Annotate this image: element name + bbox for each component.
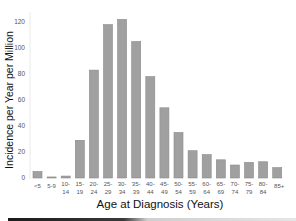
y-tick-label: 20 <box>18 148 26 155</box>
bar-15-19 <box>75 140 84 178</box>
x-tick-label: 15- <box>75 181 84 187</box>
x-tick-label: 70- <box>231 181 240 187</box>
x-tick-label: 44 <box>147 189 154 195</box>
x-tick-label: 50- <box>174 181 183 187</box>
x-tick-label: 30- <box>118 181 127 187</box>
x-tick-label: 75- <box>245 181 254 187</box>
x-tick-label: 69 <box>217 189 224 195</box>
x-tick-label: 24 <box>91 189 98 195</box>
bar-55-59 <box>188 151 197 178</box>
y-axis-ticks: 020406080100120 <box>14 18 25 181</box>
y-tick-label: 0 <box>21 174 25 181</box>
x-tick-label: 79 <box>246 189 253 195</box>
x-tick-label: 64 <box>203 189 210 195</box>
bar-60-64 <box>202 155 211 178</box>
bar-10-14 <box>61 176 70 178</box>
bar-80-84 <box>259 162 268 178</box>
y-tick-label: 40 <box>18 122 26 129</box>
x-tick-label: 54 <box>175 189 182 195</box>
bar-<5 <box>33 172 42 179</box>
x-tick-label: 10- <box>61 181 70 187</box>
bar-70-74 <box>230 165 239 178</box>
x-tick-label: 84 <box>260 189 267 195</box>
y-tick-label: 80 <box>18 70 26 77</box>
y-tick-label: 100 <box>14 44 25 51</box>
x-tick-label: 74 <box>232 189 239 195</box>
bar-chart: 020406080100120 <55-910-1415-1920-2425-2… <box>0 0 296 221</box>
bar-5-9 <box>47 177 56 178</box>
x-tick-label: 59 <box>189 189 196 195</box>
bar-65-69 <box>216 160 225 178</box>
x-tick-label: 14 <box>62 189 69 195</box>
bar-20-24 <box>89 70 98 178</box>
bottom-divider <box>8 218 296 221</box>
x-tick-label: 55- <box>188 181 197 187</box>
bar-85+ <box>273 168 282 178</box>
x-tick-label: 60- <box>202 181 211 187</box>
bar-25-29 <box>104 25 113 178</box>
x-tick-label: <5 <box>34 183 42 189</box>
x-tick-label: 35- <box>132 181 141 187</box>
x-tick-label: 39 <box>133 189 140 195</box>
bar-75-79 <box>245 162 254 178</box>
bar-35-39 <box>132 42 141 179</box>
y-tick-label: 120 <box>14 18 25 25</box>
x-tick-label: 25- <box>104 181 113 187</box>
x-tick-label: 20- <box>90 181 99 187</box>
x-axis-label: Age at Diagnosis (Years) <box>97 198 224 210</box>
x-tick-label: 65- <box>216 181 225 187</box>
bar-45-49 <box>160 108 169 178</box>
x-tick-label: 45- <box>160 181 169 187</box>
x-tick-label: 40- <box>146 181 155 187</box>
bar-50-54 <box>174 133 183 179</box>
bars <box>33 19 282 178</box>
x-tick-label: 19 <box>76 189 83 195</box>
x-tick-label: 85+ <box>274 183 285 189</box>
bar-40-44 <box>146 77 155 178</box>
x-tick-label: 5-9 <box>47 183 56 189</box>
y-tick-label: 60 <box>18 96 26 103</box>
y-axis-label: Incidence per Year per Million <box>3 31 15 169</box>
x-tick-label: 80- <box>259 181 268 187</box>
bar-30-34 <box>118 19 127 178</box>
x-tick-label: 49 <box>161 189 168 195</box>
x-axis-ticks: <55-910-1415-1920-2425-2930-3435-3940-44… <box>34 181 285 195</box>
x-tick-label: 29 <box>105 189 112 195</box>
x-tick-label: 34 <box>119 189 126 195</box>
